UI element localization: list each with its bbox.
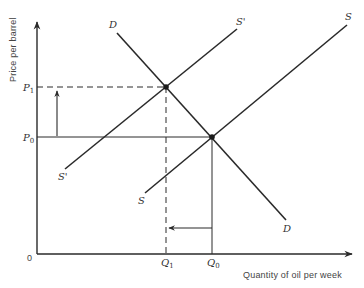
origin-label: 0 <box>27 253 32 263</box>
p1-label: P1 <box>22 82 34 95</box>
q1-label: Q1 <box>161 257 174 270</box>
p0-label: P0 <box>22 132 34 145</box>
diagram-svg: Price per barrel Quantity of oil per wee… <box>0 0 364 288</box>
equilibrium-point-e1 <box>163 84 169 90</box>
x-axis-label: Quantity of oil per week <box>243 270 342 280</box>
demand-label-bottom: D <box>282 223 291 234</box>
demand-curve <box>117 33 286 220</box>
supply-original-label-top: S <box>345 11 352 22</box>
supply-shifted-label-bottom: S' <box>58 171 68 182</box>
supply-original-curve <box>145 25 347 193</box>
supply-demand-diagram: Price per barrel Quantity of oil per wee… <box>0 0 364 288</box>
supply-shifted-curve <box>65 29 237 169</box>
supply-original-label-bottom: S <box>138 195 145 206</box>
demand-label-top: D <box>108 19 117 30</box>
q0-label: Q0 <box>207 257 220 270</box>
equilibrium-point-e0 <box>209 134 215 140</box>
supply-shifted-label-top: S' <box>236 16 246 27</box>
y-axis-label: Price per barrel <box>8 17 18 82</box>
